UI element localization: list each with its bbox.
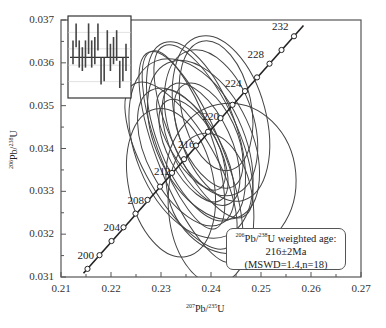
- concordia-age-label: 216: [178, 138, 195, 150]
- y-tick-label: 0.033: [4, 184, 54, 196]
- y-tick-label: 0.036: [4, 56, 54, 68]
- concordia-age-marker: [85, 266, 90, 271]
- x-tick-label: 0.25: [241, 282, 281, 294]
- annotation-age: 216±2Ma: [227, 245, 345, 258]
- concordia-age-label: 212: [154, 165, 171, 177]
- weighted-age-annotation: 206Pb/238U weighted age: 216±2Ma (MSWD=1…: [226, 228, 346, 270]
- concordia-age-marker: [242, 89, 247, 94]
- x-tick-label: 0.26: [291, 282, 331, 294]
- error-ellipse: [134, 32, 273, 230]
- concordia-age-marker: [205, 129, 210, 134]
- concordia-age-marker: [279, 47, 284, 52]
- concordia-age-label: 200: [78, 249, 95, 261]
- y-axis-title: 206Pb/238U: [8, 130, 19, 169]
- concordia-age-marker: [121, 225, 126, 230]
- concordia-age-marker: [267, 61, 272, 66]
- concordia-age-label: 224: [225, 77, 242, 89]
- concordia-age-marker: [97, 253, 102, 258]
- concordia-plot: 200204208212216220224228232: [0, 0, 386, 328]
- annotation-line-1: 206Pb/238U weighted age:: [227, 229, 345, 245]
- x-axis-title: 207Pb/235U: [186, 303, 225, 314]
- x-tick-label: 0.21: [41, 282, 81, 294]
- concordia-age-label: 220: [203, 110, 220, 122]
- error-ellipse: [125, 43, 283, 237]
- x-tick-label: 0.22: [91, 282, 131, 294]
- concordia-age-marker: [291, 34, 296, 39]
- annotation-mswd: (MSWD=1.4,n=18): [227, 258, 345, 271]
- concordia-age-marker: [230, 102, 235, 107]
- y-tick-label: 0.032: [4, 227, 54, 239]
- concordia-age-marker: [133, 211, 138, 216]
- concordia-age-marker: [181, 157, 186, 162]
- error-ellipse: [146, 72, 256, 217]
- y-tick-label: 0.031: [4, 270, 54, 282]
- y-tick-label: 0.037: [4, 13, 54, 25]
- concordia-age-marker: [109, 238, 114, 243]
- concordia-age-marker: [145, 197, 150, 202]
- concordia-age-label: 204: [104, 221, 121, 233]
- concordia-age-label: 228: [248, 48, 265, 60]
- x-tick-label: 0.27: [341, 282, 381, 294]
- x-tick-label: 0.24: [191, 282, 231, 294]
- concordia-age-marker: [157, 184, 162, 189]
- concordia-age-label: 208: [128, 194, 145, 206]
- y-tick-label: 0.035: [4, 99, 54, 111]
- weighted-mean-inset: [68, 16, 131, 98]
- x-tick-label: 0.23: [141, 282, 181, 294]
- concordia-age-label: 232: [272, 20, 289, 32]
- concordia-age-marker: [254, 75, 259, 80]
